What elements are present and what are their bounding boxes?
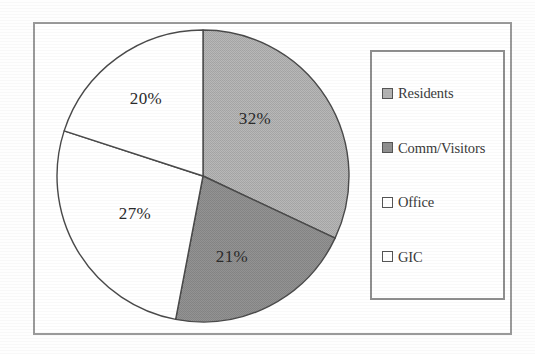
legend-swatch-office [382,197,393,208]
legend-item-gic[interactable]: GIC [372,250,503,265]
legend-item-residents[interactable]: Residents [372,86,503,101]
pie-slices [57,30,349,322]
legend-label-office: Office [398,195,434,210]
legend-swatch-gic [382,251,393,262]
pie-label-office: 27% [119,204,151,223]
chart-legend: Residents Comm/Visitors Office GIC [370,50,505,300]
legend-item-list: Residents Comm/Visitors Office GIC [372,52,503,298]
legend-label-comm-visitors: Comm/Visitors [398,141,485,156]
chart-page: 32%21%27%20% Residents Comm/Visitors Off… [0,0,535,354]
pie-label-comm-visitors: 21% [216,247,248,266]
legend-label-gic: GIC [398,250,423,265]
legend-item-comm-visitors[interactable]: Comm/Visitors [372,141,503,156]
legend-swatch-comm-visitors [382,142,393,153]
legend-swatch-residents [382,88,393,99]
legend-label-residents: Residents [398,86,454,101]
pie-label-gic: 20% [130,89,162,108]
pie-label-residents: 32% [239,109,271,128]
legend-item-office[interactable]: Office [372,195,503,210]
